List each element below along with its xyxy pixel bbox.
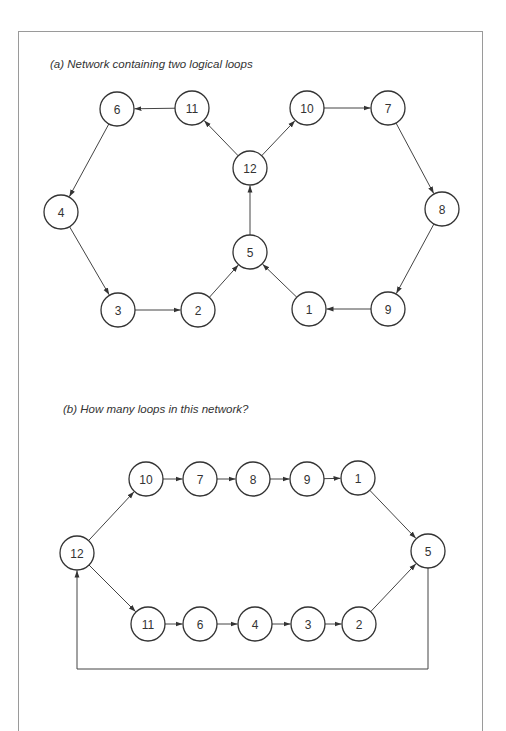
edge-12-to-10 [89, 492, 134, 541]
node-11: 11 [131, 607, 165, 641]
node-label: 8 [250, 473, 257, 487]
node-label: 1 [355, 472, 362, 486]
node-label: 10 [139, 473, 153, 487]
node-3: 3 [101, 293, 135, 327]
edge-1-to-5 [370, 490, 416, 538]
edge-2-to-5 [209, 265, 238, 297]
network-a: 611121078915234 [44, 91, 459, 327]
node-label: 11 [142, 618, 155, 632]
node-7: 7 [371, 91, 405, 125]
edge-6-to-4 [69, 124, 109, 197]
edge-12-to-10 [262, 121, 295, 156]
node-12: 12 [60, 536, 94, 570]
edge-12-to-11 [89, 565, 136, 612]
node-1: 1 [341, 461, 375, 495]
node-10: 10 [290, 91, 324, 125]
node-2: 2 [342, 607, 376, 641]
node-label: 5 [425, 545, 432, 559]
edge-1-to-5 [263, 264, 297, 297]
edge-2-to-5 [371, 564, 416, 612]
node-label: 7 [385, 102, 392, 116]
node-4: 4 [238, 607, 272, 641]
node-4: 4 [44, 195, 78, 229]
node-label: 12 [243, 162, 257, 176]
node-9: 9 [371, 292, 405, 326]
node-label: 5 [247, 246, 254, 260]
node-10: 10 [129, 462, 163, 496]
node-5: 5 [233, 235, 267, 269]
node-label: 2 [356, 618, 363, 632]
node-8: 8 [425, 192, 459, 226]
node-label: 7 [197, 473, 204, 487]
network-b: 121078915116432 [60, 461, 445, 669]
edge-7-to-8 [396, 123, 434, 194]
node-label: 8 [439, 203, 446, 217]
node-2: 2 [181, 293, 215, 327]
node-label: 3 [305, 618, 312, 632]
node-label: 2 [195, 304, 202, 318]
edge-11-to-6 [134, 108, 175, 109]
node-label: 10 [300, 102, 314, 116]
node-1: 1 [292, 292, 326, 326]
node-label: 6 [197, 618, 204, 632]
node-label: 9 [385, 303, 392, 317]
edge-4-to-3 [70, 227, 110, 295]
node-label: 4 [58, 206, 65, 220]
node-label: 1 [306, 303, 313, 317]
node-label: 11 [186, 102, 199, 116]
node-9: 9 [290, 462, 324, 496]
node-label: 9 [304, 473, 311, 487]
edge-8-to-9 [396, 224, 434, 294]
node-label: 12 [70, 547, 84, 561]
node-label: 3 [115, 304, 122, 318]
node-6: 6 [100, 92, 134, 126]
node-label: 6 [114, 103, 121, 117]
node-7: 7 [183, 462, 217, 496]
edge-12-to-11 [204, 121, 238, 156]
node-5: 5 [411, 534, 445, 568]
node-label: 4 [252, 618, 259, 632]
node-11: 11 [175, 91, 209, 125]
node-8: 8 [236, 462, 270, 496]
node-6: 6 [183, 607, 217, 641]
node-12: 12 [233, 151, 267, 185]
node-3: 3 [291, 607, 325, 641]
